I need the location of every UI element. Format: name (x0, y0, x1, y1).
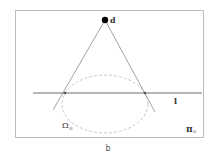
plane-frame (16, 11, 204, 138)
left-intersection-point (64, 92, 67, 95)
diagram-canvas: d l Ω∞ π∞ b (0, 0, 221, 160)
figure-caption: b (105, 144, 110, 153)
absolute-conic-ellipse (62, 75, 148, 133)
point-d (102, 17, 108, 23)
right-tangent-line (105, 20, 155, 112)
right-intersection-point (144, 92, 147, 95)
pi-label: π∞ (186, 124, 197, 134)
left-tangent-line (53, 20, 105, 110)
point-d-label: d (110, 15, 116, 25)
line-l-label: l (174, 96, 177, 106)
